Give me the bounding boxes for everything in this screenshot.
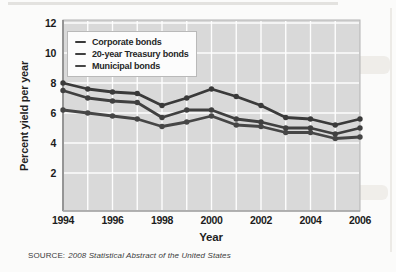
x-tick-label: 2000 bbox=[200, 214, 223, 226]
data-point-20-year-treasury-bonds bbox=[184, 107, 189, 112]
data-point-corporate-bonds bbox=[60, 80, 65, 85]
y-tick-label: 4 bbox=[50, 137, 56, 149]
data-point-20-year-treasury-bonds bbox=[209, 107, 214, 112]
data-point-municipal-bonds bbox=[184, 119, 189, 124]
data-point-corporate-bonds bbox=[209, 86, 214, 91]
x-axis-title: Year bbox=[199, 231, 223, 243]
data-point-20-year-treasury-bonds bbox=[135, 100, 140, 105]
legend-item-corporate-bonds: Corporate bonds bbox=[75, 36, 191, 48]
data-point-20-year-treasury-bonds bbox=[159, 115, 164, 120]
source-line: SOURCE:2008 Statistical Abstract of the … bbox=[28, 251, 231, 260]
data-point-20-year-treasury-bonds bbox=[234, 116, 239, 121]
data-point-corporate-bonds bbox=[308, 116, 313, 121]
x-tick-label: 2006 bbox=[349, 214, 372, 226]
source-title: 2008 Statistical Abstract of the United … bbox=[68, 251, 231, 260]
data-point-municipal-bonds bbox=[159, 124, 164, 129]
data-point-corporate-bonds bbox=[333, 122, 338, 127]
data-point-municipal-bonds bbox=[209, 113, 214, 118]
data-point-municipal-bonds bbox=[110, 113, 115, 118]
bond-yields-line-chart: 246810121994199619982000200220042006 bbox=[0, 0, 396, 272]
data-point-corporate-bonds bbox=[258, 103, 263, 108]
source-prefix: SOURCE: bbox=[28, 251, 65, 260]
legend-line-marker bbox=[75, 41, 86, 44]
legend-item-municipal-bonds: Municipal bonds bbox=[75, 60, 191, 72]
data-point-corporate-bonds bbox=[283, 115, 288, 120]
data-point-municipal-bonds bbox=[60, 107, 65, 112]
x-tick-label: 1996 bbox=[101, 214, 124, 226]
x-tick-label: 1994 bbox=[52, 214, 75, 226]
data-point-municipal-bonds bbox=[333, 136, 338, 141]
y-tick-label: 6 bbox=[50, 107, 56, 119]
data-point-corporate-bonds bbox=[85, 86, 90, 91]
y-axis-title: Percent yield per year bbox=[18, 61, 30, 171]
y-tick-label: 2 bbox=[50, 167, 56, 179]
data-point-municipal-bonds bbox=[85, 110, 90, 115]
chart-legend: Corporate bonds20-year Treasury bondsMun… bbox=[67, 31, 197, 77]
x-tick-label: 2002 bbox=[250, 214, 273, 226]
data-point-corporate-bonds bbox=[159, 103, 164, 108]
x-tick-label: 2004 bbox=[299, 214, 322, 226]
legend-line-marker bbox=[75, 65, 86, 68]
data-point-corporate-bonds bbox=[184, 95, 189, 100]
data-point-municipal-bonds bbox=[258, 124, 263, 129]
legend-line-marker bbox=[75, 53, 86, 56]
legend-label: 20-year Treasury bonds bbox=[92, 49, 189, 59]
legend-item-20-year-treasury-bonds: 20-year Treasury bonds bbox=[75, 48, 191, 60]
scanned-chart-page: 246810121994199619982000200220042006 Per… bbox=[0, 0, 396, 272]
legend-label: Corporate bonds bbox=[92, 37, 162, 47]
y-tick-label: 12 bbox=[45, 17, 57, 29]
data-point-municipal-bonds bbox=[308, 130, 313, 135]
y-tick-label: 10 bbox=[45, 47, 57, 59]
data-point-municipal-bonds bbox=[283, 130, 288, 135]
data-point-20-year-treasury-bonds bbox=[85, 95, 90, 100]
data-point-corporate-bonds bbox=[135, 91, 140, 96]
data-point-municipal-bonds bbox=[135, 116, 140, 121]
data-point-20-year-treasury-bonds bbox=[110, 98, 115, 103]
data-point-corporate-bonds bbox=[357, 116, 362, 121]
data-point-municipal-bonds bbox=[357, 134, 362, 139]
data-point-20-year-treasury-bonds bbox=[357, 125, 362, 130]
y-tick-label: 8 bbox=[50, 77, 56, 89]
data-point-20-year-treasury-bonds bbox=[60, 88, 65, 93]
data-point-corporate-bonds bbox=[234, 94, 239, 99]
data-point-municipal-bonds bbox=[234, 122, 239, 127]
x-tick-label: 1998 bbox=[151, 214, 174, 226]
data-point-corporate-bonds bbox=[110, 89, 115, 94]
legend-label: Municipal bonds bbox=[92, 61, 160, 71]
